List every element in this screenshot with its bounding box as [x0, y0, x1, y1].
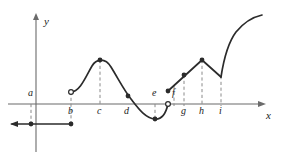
pt-f-start — [166, 89, 171, 94]
pt-e-right — [166, 102, 171, 107]
tick-label-a: a — [28, 88, 33, 98]
function-curves-group — [12, 15, 262, 124]
tick-label-c: c — [97, 106, 101, 116]
tick-label-g: g — [181, 106, 186, 116]
x-axis-arrowhead — [258, 101, 266, 107]
pt-b-upper — [69, 90, 74, 95]
pt-e — [153, 117, 158, 122]
tick-label-h: h — [199, 106, 204, 116]
pt-a — [29, 122, 34, 127]
pt-c — [98, 58, 103, 63]
tick-label-b: b — [68, 106, 73, 116]
y-axis-label: y — [44, 16, 49, 27]
function-graph-figure: y x a b c d e f g h i — [0, 0, 287, 157]
pt-b-lower — [69, 122, 74, 127]
tick-label-i: i — [219, 106, 222, 116]
pt-g — [182, 73, 187, 78]
filled-points-group — [29, 58, 205, 127]
axes-group — [8, 13, 266, 152]
pt-d — [126, 94, 131, 99]
tick-label-e: e — [152, 88, 156, 98]
final-curve — [221, 15, 262, 77]
tick-label-d: d — [124, 106, 129, 116]
y-axis-arrowhead — [33, 13, 39, 20]
tick-label-f: f — [172, 88, 175, 98]
falling-line — [202, 60, 221, 77]
constant-branch-arrowhead — [10, 121, 18, 127]
x-axis-label: x — [266, 110, 271, 121]
pt-h — [200, 58, 205, 63]
